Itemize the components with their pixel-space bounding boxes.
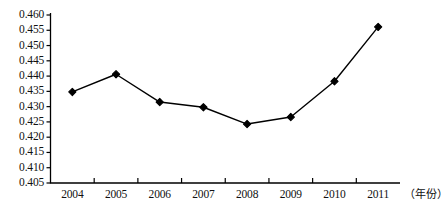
- y-axis-tick-label: 0.430: [2, 101, 44, 113]
- x-axis-tick-label: 2006: [137, 189, 183, 201]
- data-point-marker: [69, 88, 76, 95]
- x-axis-tick-label: 2008: [224, 189, 270, 201]
- y-axis-tick-label: 0.460: [2, 9, 44, 21]
- y-axis-tick-label: 0.435: [2, 85, 44, 97]
- x-axis-tick-label: 2007: [180, 189, 226, 201]
- axis-lines: [51, 13, 401, 183]
- x-axis-tick-label: 2004: [49, 189, 95, 201]
- y-axis-tick-label: 0.455: [2, 24, 44, 36]
- data-point-marker: [200, 104, 207, 111]
- y-axis-tick-label: 0.410: [2, 162, 44, 174]
- y-axis-tick-label: 0.440: [2, 70, 44, 82]
- y-axis-tick-label: 0.415: [2, 146, 44, 158]
- data-point-marker: [156, 98, 163, 105]
- y-axis-tick-label: 0.420: [2, 131, 44, 143]
- series-layer: [69, 23, 382, 127]
- x-axis-title: （年份）: [404, 189, 444, 200]
- axes-layer: [47, 13, 401, 183]
- x-axis-tick-label: 2009: [268, 189, 314, 201]
- x-axis-tick-label: 2005: [93, 189, 139, 201]
- y-axis-tick-label: 0.450: [2, 40, 44, 52]
- y-axis-tick-label: 0.425: [2, 116, 44, 128]
- line-chart: 0.4600.4550.4500.4450.4400.4350.4300.425…: [0, 0, 444, 223]
- data-point-marker: [112, 71, 119, 78]
- x-axis-tick-label: 2011: [355, 189, 401, 201]
- x-axis-tick-label: 2010: [311, 189, 357, 201]
- data-point-marker: [243, 120, 250, 127]
- y-axis-tick-label: 0.405: [2, 177, 44, 189]
- y-axis-tick-label: 0.445: [2, 55, 44, 67]
